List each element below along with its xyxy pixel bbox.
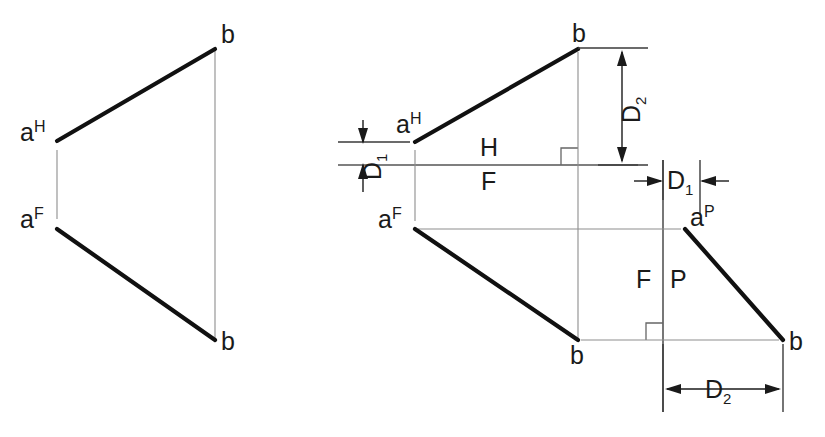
dimension-label-d2-bottom-subscript: 2 — [723, 390, 731, 407]
arrowhead-d1-right-inright — [700, 176, 716, 186]
dimension-label-d1-right-subscript: 1 — [685, 181, 693, 198]
right-label-b-top: b — [572, 19, 586, 48]
dimension-label-d2-top-base: D — [617, 105, 645, 123]
right-label-a-h: aH — [396, 110, 422, 139]
left-label-b-top: b — [221, 20, 235, 49]
right-line-ab-profile-view — [685, 229, 783, 340]
right-line-ab-top-view — [415, 49, 578, 142]
left-label-a-f-superscript: F — [34, 205, 44, 222]
left-line-ab-top-view — [57, 49, 215, 141]
left-label-a-h-superscript: H — [34, 118, 46, 135]
right-label-a-h-superscript: H — [410, 110, 422, 127]
arrowhead-d2-bottom-left — [665, 384, 681, 394]
dimension-label-d2-top: D2 — [617, 97, 646, 123]
right-label-a-f-superscript: F — [392, 205, 402, 222]
right-line-ab-front-view — [415, 229, 578, 340]
dimension-label-d1-left-base: D — [358, 162, 386, 180]
left-label-a-f-base: a — [20, 205, 34, 233]
left-label-a-h: aH — [20, 118, 46, 147]
right-label-b-front: b — [570, 341, 584, 370]
left-label-a-f: aF — [20, 205, 44, 234]
fold-label-h: H — [480, 133, 498, 162]
right-label-a-p-superscript: P — [704, 203, 715, 220]
dimension-label-d1-left: D1 — [358, 154, 387, 180]
dimension-label-d2-top-subscript: 2 — [632, 97, 649, 105]
dimension-label-d1-left-subscript: 1 — [373, 154, 390, 162]
left-view-group — [57, 49, 215, 340]
dimension-label-d2-bottom-base: D — [705, 375, 723, 403]
right-label-a-f: aF — [378, 205, 402, 234]
dimension-label-d1-right-base: D — [667, 166, 685, 194]
arrowhead-d2-bottom-right — [765, 384, 781, 394]
fold-label-f-left: F — [636, 265, 651, 294]
arrowhead-d1-right-inleft — [647, 176, 663, 186]
right-label-b-profile: b — [789, 327, 803, 356]
fold-label-f: F — [481, 167, 496, 196]
right-label-a-p-base: a — [690, 203, 704, 231]
right-label-a-p: aP — [690, 203, 715, 232]
left-label-b-bottom: b — [221, 327, 235, 356]
dimension-label-d2-bottom: D2 — [705, 375, 731, 404]
arrowhead-d2-top-up — [617, 50, 627, 66]
right-angle-marker-fp — [646, 323, 663, 340]
right-view-group — [338, 48, 783, 412]
right-angle-marker-hf — [561, 148, 578, 165]
arrowhead-d2-top-down — [617, 147, 627, 163]
engineering-drawing-figure: aH aF b b aH aF aP b b b H F F P D1 D1 D… — [0, 0, 825, 437]
fold-label-p-right: P — [670, 265, 687, 294]
left-line-ab-front-view — [57, 229, 215, 340]
right-label-a-h-base: a — [396, 110, 410, 138]
right-label-a-f-base: a — [378, 205, 392, 233]
left-label-a-h-base: a — [20, 118, 34, 146]
dimension-label-d1-right: D1 — [667, 166, 693, 195]
